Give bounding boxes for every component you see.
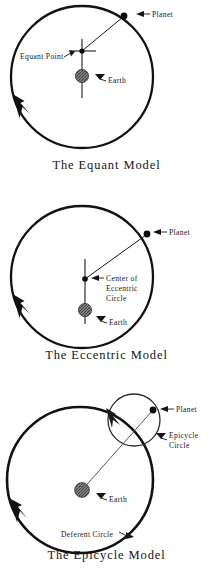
planet-label: Planet bbox=[169, 228, 191, 237]
eccentric-center-label-line1: Center of bbox=[106, 274, 138, 283]
figure-eccentric-model: Planet Center of Eccentric Circle Earth … bbox=[0, 190, 213, 380]
earth-label: Earth bbox=[109, 495, 127, 504]
caption-epicycle-model: The Epicycle Model bbox=[0, 548, 213, 563]
center-to-planet-line bbox=[85, 235, 146, 279]
deferent-label: Deferent Circle bbox=[61, 530, 114, 539]
planet-label: Planet bbox=[152, 10, 174, 19]
earth-label: Earth bbox=[108, 76, 126, 85]
earth-marker bbox=[78, 303, 91, 316]
epicycle-label-group: Epicycle Circle bbox=[156, 431, 199, 450]
planet-label-group: Planet bbox=[136, 10, 174, 19]
eccentric-center-label-group: Center of Eccentric Circle bbox=[91, 274, 138, 303]
epicycle-label-line2: Circle bbox=[169, 441, 190, 450]
eccentric-center-marker bbox=[82, 276, 88, 282]
equant-point-label-group: Equant Point bbox=[20, 50, 75, 61]
planet-marker bbox=[150, 407, 157, 414]
planet-marker bbox=[144, 231, 151, 238]
planet-leader-arrow-icon bbox=[160, 406, 168, 412]
eccentric-center-label-line3: Circle bbox=[106, 294, 127, 303]
eccentric-center-label-line2: Eccentric bbox=[106, 284, 138, 293]
center-leader-arrow-icon bbox=[91, 275, 99, 281]
planet-label: Planet bbox=[176, 405, 198, 414]
figure-equant-model: Planet Equant Point Earth The Equant Mod… bbox=[0, 0, 213, 190]
earth-marker bbox=[75, 69, 88, 82]
figure-epicycle-model: Planet Epicycle Circle Earth Deferent Ci… bbox=[0, 380, 213, 577]
diagram-page: Planet Equant Point Earth The Equant Mod… bbox=[0, 0, 213, 577]
planet-label-group: Planet bbox=[153, 228, 191, 237]
equant-to-planet-line bbox=[82, 17, 123, 51]
equant-point-label: Equant Point bbox=[20, 52, 64, 61]
epicycle-label-line1: Epicycle bbox=[169, 431, 199, 440]
planet-label-group: Planet bbox=[160, 405, 198, 414]
caption-eccentric-model: The Eccentric Model bbox=[0, 348, 213, 363]
planet-marker bbox=[121, 13, 128, 20]
earth-marker bbox=[75, 483, 90, 498]
planet-leader-arrow-icon bbox=[153, 229, 161, 235]
equant-point-marker bbox=[79, 48, 84, 53]
caption-equant-model: The Equant Model bbox=[0, 158, 213, 173]
earth-label-group: Earth bbox=[96, 493, 127, 504]
earth-label: Earth bbox=[109, 318, 127, 327]
earth-label-group: Earth bbox=[96, 316, 127, 327]
planet-leader-arrow-icon bbox=[136, 11, 144, 17]
earth-label-group: Earth bbox=[95, 74, 126, 85]
